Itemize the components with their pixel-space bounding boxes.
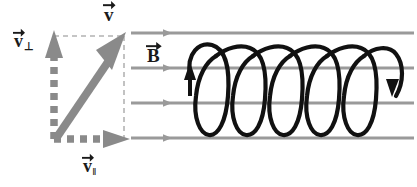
- parallel-subscript: ‖: [93, 165, 96, 177]
- velocity-perpendicular-label: v ⊥: [14, 32, 33, 53]
- vector-arrow-icon: [146, 40, 162, 50]
- field-line: [131, 134, 414, 142]
- velocity-parallel-label: v ‖: [83, 157, 96, 178]
- vector-arrow-icon: [103, 0, 116, 9]
- v-perpendicular-vector: [45, 30, 63, 139]
- perpendicular-subscript: ⊥: [24, 40, 34, 52]
- physics-diagram: v v ⊥ v ‖: [0, 0, 417, 187]
- field-line: [131, 64, 414, 72]
- velocity-vector: [55, 32, 126, 140]
- field-line: [131, 99, 414, 107]
- velocity-label: v: [104, 5, 114, 24]
- field-line: [131, 29, 414, 37]
- magnetic-field-label: B: [147, 46, 160, 65]
- diagram-canvas: [0, 0, 417, 187]
- vector-arrow-icon: [82, 152, 94, 161]
- vector-arrow-icon: [13, 27, 25, 36]
- v-parallel-vector: [54, 130, 130, 148]
- helix-loop: [189, 44, 228, 135]
- helix-trajectory: [189, 44, 402, 135]
